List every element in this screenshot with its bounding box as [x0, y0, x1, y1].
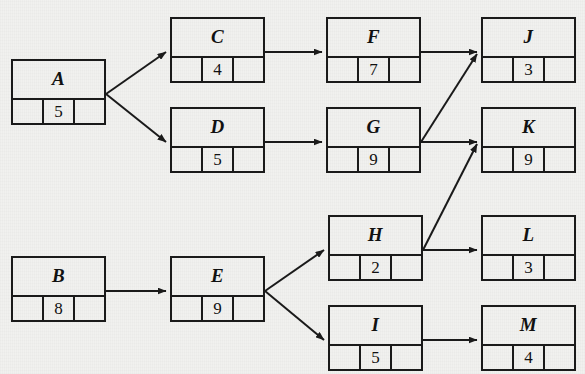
node-f-cell-left — [328, 58, 357, 81]
node-h-cell-right — [392, 256, 421, 279]
node-m[interactable]: M4 — [481, 305, 576, 371]
node-h-cell-left — [330, 256, 359, 279]
node-e-label: E — [172, 258, 263, 297]
edge-e-to-h — [265, 250, 324, 291]
node-c-label: C — [172, 19, 263, 58]
node-b-cells: 8 — [13, 297, 104, 320]
node-a-cells: 5 — [13, 100, 104, 123]
node-k[interactable]: K9 — [481, 107, 576, 173]
node-f-cells: 7 — [328, 58, 419, 81]
node-k-value: 9 — [512, 148, 545, 171]
node-i[interactable]: I5 — [328, 305, 423, 371]
node-g-value: 9 — [357, 148, 390, 171]
node-m-cell-right — [545, 346, 574, 369]
node-l-cell-right — [545, 256, 574, 279]
node-b[interactable]: B8 — [11, 256, 106, 322]
node-i-value: 5 — [359, 346, 392, 369]
node-f[interactable]: F7 — [326, 17, 421, 83]
node-a-cell-right — [75, 100, 104, 123]
node-d-cells: 5 — [172, 148, 263, 171]
node-k-cells: 9 — [483, 148, 574, 171]
node-e[interactable]: E9 — [170, 256, 265, 322]
node-k-cell-left — [483, 148, 512, 171]
node-e-value: 9 — [201, 297, 234, 320]
node-f-cell-right — [390, 58, 419, 81]
node-g-cell-left — [328, 148, 357, 171]
node-f-label: F — [328, 19, 419, 58]
node-c-cell-left — [172, 58, 201, 81]
edge-e-to-i — [265, 291, 324, 340]
node-k-label: K — [483, 109, 574, 148]
node-h-label: H — [330, 217, 421, 256]
node-e-cells: 9 — [172, 297, 263, 320]
node-l-cells: 3 — [483, 256, 574, 279]
node-g-cell-right — [390, 148, 419, 171]
node-b-label: B — [13, 258, 104, 297]
node-h-cells: 2 — [330, 256, 421, 279]
node-d[interactable]: D5 — [170, 107, 265, 173]
edge-a-to-c — [106, 52, 166, 94]
node-l-cell-left — [483, 256, 512, 279]
node-m-cell-left — [483, 346, 512, 369]
node-j-label: J — [483, 19, 574, 58]
node-a[interactable]: A5 — [11, 59, 106, 125]
node-l[interactable]: L3 — [481, 215, 576, 281]
node-c-cells: 4 — [172, 58, 263, 81]
edge-h-to-k — [423, 144, 477, 250]
node-a-value: 5 — [42, 100, 75, 123]
node-g-label: G — [328, 109, 419, 148]
node-c-cell-right — [234, 58, 263, 81]
node-j-value: 3 — [512, 58, 545, 81]
node-j[interactable]: J3 — [481, 17, 576, 83]
node-d-label: D — [172, 109, 263, 148]
node-h[interactable]: H2 — [328, 215, 423, 281]
node-c[interactable]: C4 — [170, 17, 265, 83]
node-m-label: M — [483, 307, 574, 346]
node-b-cell-right — [75, 297, 104, 320]
node-l-label: L — [483, 217, 574, 256]
node-k-cell-right — [545, 148, 574, 171]
node-j-cell-left — [483, 58, 512, 81]
node-j-cell-right — [545, 58, 574, 81]
node-i-label: I — [330, 307, 421, 346]
node-i-cell-right — [392, 346, 421, 369]
node-d-cell-left — [172, 148, 201, 171]
node-b-cell-left — [13, 297, 42, 320]
node-d-value: 5 — [201, 148, 234, 171]
node-i-cell-left — [330, 346, 359, 369]
node-m-cells: 4 — [483, 346, 574, 369]
node-l-value: 3 — [512, 256, 545, 279]
edge-a-to-d — [106, 94, 166, 142]
node-h-value: 2 — [359, 256, 392, 279]
node-e-cell-right — [234, 297, 263, 320]
edges — [106, 52, 477, 340]
node-f-value: 7 — [357, 58, 390, 81]
node-a-cell-left — [13, 100, 42, 123]
node-g[interactable]: G9 — [326, 107, 421, 173]
edge-g-to-j — [421, 54, 477, 142]
node-d-cell-right — [234, 148, 263, 171]
diagram-canvas: A5B8C4D5E9F7G9H2I5J3K9L3M4 — [0, 0, 585, 374]
node-e-cell-left — [172, 297, 201, 320]
node-a-label: A — [13, 61, 104, 100]
node-m-value: 4 — [512, 346, 545, 369]
node-j-cells: 3 — [483, 58, 574, 81]
node-g-cells: 9 — [328, 148, 419, 171]
node-c-value: 4 — [201, 58, 234, 81]
node-b-value: 8 — [42, 297, 75, 320]
node-i-cells: 5 — [330, 346, 421, 369]
